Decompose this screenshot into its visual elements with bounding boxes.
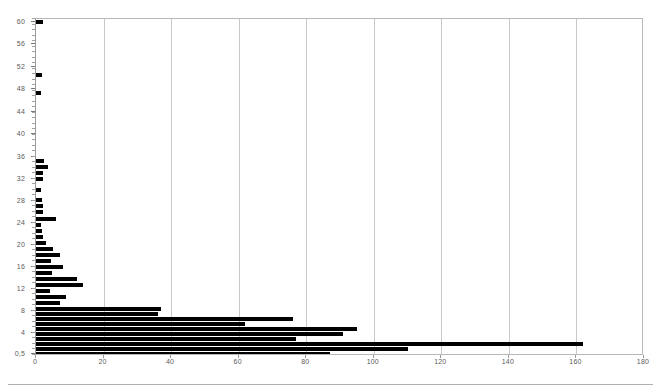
bar-row <box>36 312 158 316</box>
y-tick-label: 20 <box>17 241 25 248</box>
y-axis: 60565248444036322824201612840,5 <box>0 18 31 355</box>
bar <box>36 253 60 257</box>
bar <box>36 241 46 245</box>
bar-row <box>36 332 343 336</box>
chart-page: 60565248444036322824201612840,5 02040608… <box>0 0 661 392</box>
x-tick-label: 120 <box>434 358 446 365</box>
bar-row <box>36 229 42 233</box>
bar-row <box>36 265 63 269</box>
bar <box>36 277 77 281</box>
bar <box>36 73 42 77</box>
bar-row <box>36 289 50 293</box>
bar-row <box>36 188 41 192</box>
bar-series <box>36 19 642 354</box>
bar-row <box>36 247 53 251</box>
x-tick-label: 160 <box>569 358 581 365</box>
bar-row <box>36 198 42 202</box>
bar <box>36 165 48 169</box>
bar-row <box>36 322 245 326</box>
plot-area <box>35 18 643 355</box>
bar <box>36 91 41 95</box>
bar-row <box>36 20 43 24</box>
bar-row <box>36 171 43 175</box>
bar-row <box>36 91 41 95</box>
bar <box>36 259 51 263</box>
bar <box>36 217 56 221</box>
bar-row <box>36 73 42 77</box>
bar-row <box>36 177 43 181</box>
bar <box>36 289 50 293</box>
footer-divider <box>8 384 653 385</box>
bar <box>36 332 343 336</box>
y-tick-label: 48 <box>17 85 25 92</box>
bar <box>36 337 296 341</box>
x-tick-label: 140 <box>502 358 514 365</box>
bar <box>36 204 43 208</box>
bar <box>36 327 357 331</box>
y-tick-label: 60 <box>17 18 25 25</box>
bar-row <box>36 337 296 341</box>
bar <box>36 159 44 163</box>
bar-row <box>36 253 60 257</box>
y-tick-label: 44 <box>17 108 25 115</box>
y-tick-label: 56 <box>17 40 25 47</box>
x-tick-label: 0 <box>33 358 37 365</box>
bar <box>36 247 53 251</box>
x-tick-label: 20 <box>98 358 106 365</box>
bar <box>36 229 42 233</box>
bar <box>36 198 42 202</box>
bar-row <box>36 241 46 245</box>
bar-row <box>36 165 48 169</box>
bar-row <box>36 317 293 321</box>
bar <box>36 223 41 227</box>
bar <box>36 265 63 269</box>
x-tick-label: 100 <box>367 358 379 365</box>
bar-row <box>36 295 66 299</box>
bar-row <box>36 277 77 281</box>
x-tick-label: 60 <box>234 358 242 365</box>
y-tick-label: 52 <box>17 63 25 70</box>
bar <box>36 307 161 311</box>
x-tick-label: 40 <box>166 358 174 365</box>
bar <box>36 210 43 214</box>
y-tick-label: 16 <box>17 263 25 270</box>
bar-row <box>36 347 408 351</box>
bar-row <box>36 283 83 287</box>
bar-row <box>36 301 60 305</box>
bar <box>36 322 245 326</box>
bar-row <box>36 271 52 275</box>
bar-row <box>36 223 41 227</box>
bar <box>36 171 43 175</box>
y-tick-label: 28 <box>17 197 25 204</box>
y-tick-label: 8 <box>21 307 25 314</box>
y-tick-label: 12 <box>17 285 25 292</box>
bar-row <box>36 259 51 263</box>
x-axis: 020406080100120140160180 <box>0 358 661 374</box>
bar <box>36 295 66 299</box>
bar <box>36 347 408 351</box>
bar <box>36 188 41 192</box>
bar <box>36 20 43 24</box>
y-tick-label: 36 <box>17 153 25 160</box>
bar <box>36 317 293 321</box>
bar <box>36 235 43 239</box>
x-tick-label: 80 <box>301 358 309 365</box>
bar-row <box>36 235 43 239</box>
y-tick-label: 40 <box>17 130 25 137</box>
bar-row <box>36 342 583 346</box>
x-tick-label: 180 <box>637 358 649 365</box>
bar-row <box>36 217 56 221</box>
bar <box>36 301 60 305</box>
bar <box>36 342 583 346</box>
y-tick-label: 24 <box>17 219 25 226</box>
bar-row <box>36 159 44 163</box>
bar <box>36 271 52 275</box>
bar <box>36 312 158 316</box>
bar <box>36 283 83 287</box>
y-tick-label: 32 <box>17 175 25 182</box>
bar-row <box>36 327 357 331</box>
bar <box>36 177 43 181</box>
bar-row <box>36 210 43 214</box>
bar-row <box>36 204 43 208</box>
bar-row <box>36 307 161 311</box>
